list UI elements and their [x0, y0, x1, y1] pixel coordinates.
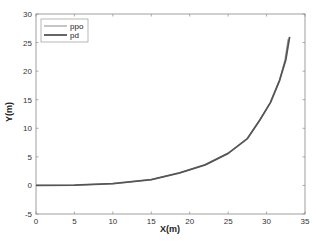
x-tick-label: 20 — [185, 217, 194, 226]
y-tick-label: 10 — [23, 124, 32, 133]
y-tick-label: 20 — [23, 67, 32, 76]
legend-label-pd: pd — [70, 31, 79, 40]
y-axis-label: Y(m) — [4, 102, 14, 122]
x-tick-label: 30 — [262, 217, 271, 226]
x-tick-label: 0 — [34, 217, 39, 226]
legend-label-ppo: ppo — [70, 22, 84, 31]
x-tick-label: 15 — [147, 217, 156, 226]
y-tick-label: 15 — [23, 96, 32, 105]
x-axis-label: X(m) — [160, 224, 180, 234]
y-tick-label: 30 — [23, 10, 32, 19]
x-tick-label: 25 — [224, 217, 233, 226]
plot-area: 05101520253035-5051015202530 — [23, 10, 310, 226]
y-tick-label: -5 — [25, 210, 33, 219]
x-tick-label: 5 — [72, 217, 77, 226]
chart: 05101520253035-5051015202530 ppopd X(m) … — [0, 0, 318, 250]
x-tick-label: 35 — [301, 217, 310, 226]
x-tick-label: 10 — [108, 217, 117, 226]
y-tick-label: 0 — [28, 181, 33, 190]
y-tick-label: 5 — [28, 153, 33, 162]
y-tick-label: 25 — [23, 39, 32, 48]
legend: ppopd — [41, 19, 88, 42]
